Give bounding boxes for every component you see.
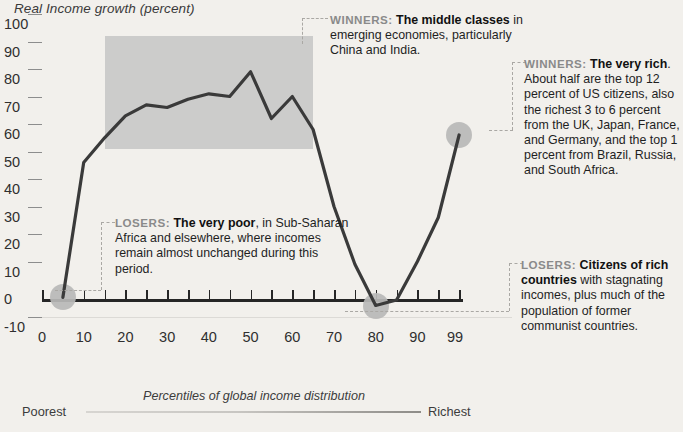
annotation-lead: WINNERS:	[524, 57, 587, 70]
annotation-bold: The very rich	[590, 57, 667, 71]
leader-winners-rich-v	[512, 62, 513, 130]
annotation-lead: WINNERS:	[330, 13, 393, 26]
annotation-winners-very-rich: WINNERS: The very rich. About half are t…	[524, 56, 683, 179]
annotation-rest: . About half are the top 12 percent of U…	[524, 57, 680, 177]
annotation-lead: LOSERS:	[115, 216, 170, 229]
leader-losers-rich-h2	[345, 311, 509, 312]
annotation-losers-rich-countries: LOSERS: Citizens of rich countries with …	[521, 257, 681, 334]
leader-winners-middle-v	[302, 18, 303, 44]
leader-losers-rich-v	[509, 263, 510, 311]
footer-gradient-line	[86, 411, 421, 413]
annotation-losers-very-poor: LOSERS: The very poor, in Sub-Saharan Af…	[115, 215, 350, 277]
leader-losers-poor-h	[101, 222, 115, 223]
leader-winners-rich-h	[489, 130, 513, 131]
annotation-winners-middle-classes: WINNERS: The middle classes in emerging …	[330, 12, 530, 59]
leader-losers-poor-h2	[55, 290, 101, 291]
annotation-bold: The middle classes	[396, 13, 510, 27]
leader-winners-middle-h	[302, 18, 328, 19]
x-axis-caption: Percentiles of global income distributio…	[143, 389, 365, 403]
leader-losers-poor-v	[101, 222, 102, 290]
footer-label-richest: Richest	[428, 404, 471, 419]
annotation-lead: LOSERS:	[521, 258, 576, 271]
chart-root: Real Income growth (percent) -1001020304…	[0, 0, 683, 432]
annotation-bold: The very poor	[174, 216, 256, 230]
footer-label-poorest: Poorest	[22, 404, 66, 419]
